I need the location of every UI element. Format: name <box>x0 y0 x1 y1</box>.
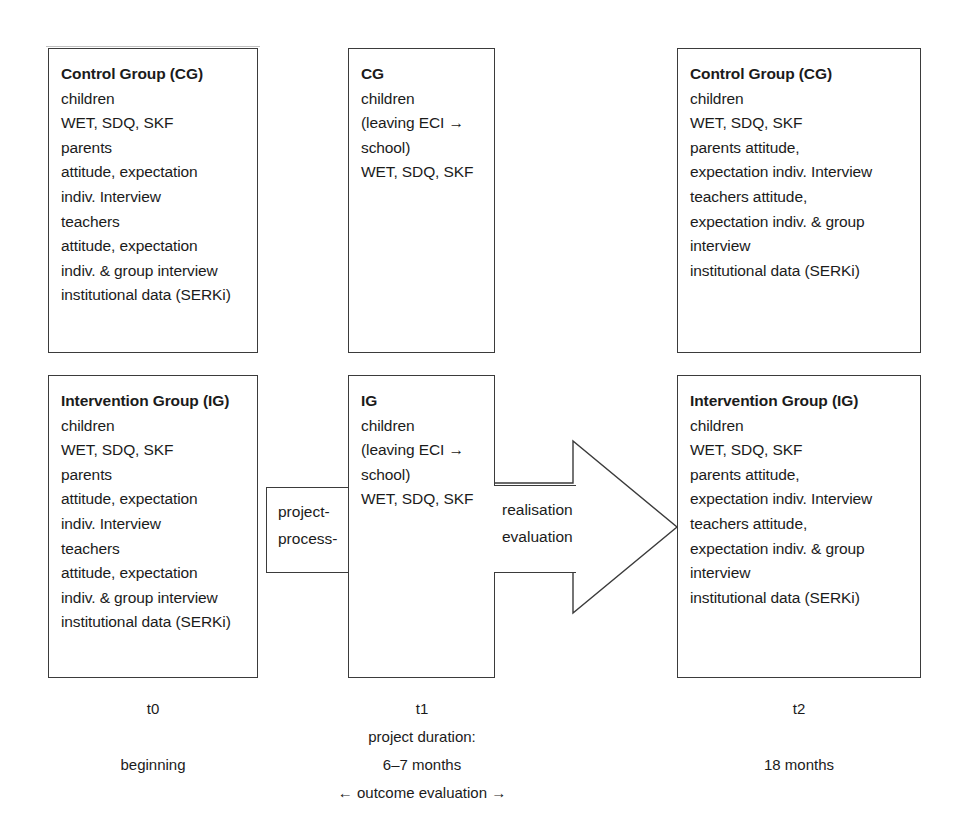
box-line: WET, SDQ, SKF <box>690 438 920 463</box>
timeline-sublabel-t2: 18 months <box>677 750 921 780</box>
box-line: parents <box>61 136 257 161</box>
connector-line: evaluation <box>502 523 576 550</box>
box-line: children <box>61 414 257 439</box>
box-line: parents attitude, <box>690 136 920 161</box>
box-line: attitude, expectation <box>61 234 257 259</box>
box-line: interview <box>690 234 920 259</box>
box-line: expectation indiv. Interview <box>690 160 920 185</box>
box-line: children <box>61 87 257 112</box>
box-intervention-group-t1: IG children (leaving ECI → school) WET, … <box>348 375 495 678</box>
box-line: parents <box>61 463 257 488</box>
box-line: attitude, expectation <box>61 561 257 586</box>
box-line: indiv. Interview <box>61 185 257 210</box>
connector-project-process: project- process- <box>266 487 349 573</box>
timeline-marker-t2: t2 <box>677 694 921 724</box>
box-line: WET, SDQ, SKF <box>361 487 494 512</box>
box-line: teachers attitude, <box>690 512 920 537</box>
box-line: WET, SDQ, SKF <box>361 160 494 185</box>
timeline-marker-t1: t1 <box>313 694 531 724</box>
timeline-project-duration-label: project duration: <box>313 722 531 752</box>
box-intervention-group-t0: Intervention Group (IG) children WET, SD… <box>48 375 258 678</box>
box-line: teachers <box>61 210 257 235</box>
box-line: parents attitude, <box>690 463 920 488</box>
timeline-sublabel-t1: 6–7 months <box>313 750 531 780</box>
box-intervention-group-t2: Intervention Group (IG) children WET, SD… <box>677 375 921 678</box>
box-line: teachers attitude, <box>690 185 920 210</box>
box-line: indiv. Interview <box>61 512 257 537</box>
box-line: institutional data (SERKi) <box>61 610 257 635</box>
box-control-group-t2: Control Group (CG) children WET, SDQ, SK… <box>677 48 921 353</box>
box-control-group-t1: CG children (leaving ECI → school) WET, … <box>348 48 495 353</box>
box-line: children <box>690 414 920 439</box>
box-control-group-t0: Control Group (CG) children WET, SDQ, SK… <box>48 48 258 353</box>
box-line: children <box>690 87 920 112</box>
box-line: institutional data (SERKi) <box>690 259 920 284</box>
box-line: school) <box>361 136 494 161</box>
box-line: WET, SDQ, SKF <box>61 111 257 136</box>
box-title: Intervention Group (IG) <box>690 389 920 414</box>
timeline-marker-t0: t0 <box>48 694 258 724</box>
box-line: WET, SDQ, SKF <box>61 438 257 463</box>
diagram-canvas: Control Group (CG) children WET, SDQ, SK… <box>0 0 966 838</box>
box-title: Intervention Group (IG) <box>61 389 257 414</box>
box-line: attitude, expectation <box>61 160 257 185</box>
timeline-sublabel-t0: beginning <box>48 750 258 780</box>
box-line: (leaving ECI → <box>361 111 494 136</box>
box-line: interview <box>690 561 920 586</box>
box-line: attitude, expectation <box>61 487 257 512</box>
box-line: (leaving ECI → <box>361 438 494 463</box>
box-line: WET, SDQ, SKF <box>690 111 920 136</box>
box-line: expectation indiv. & group <box>690 537 920 562</box>
connector-realisation-evaluation: realisation evaluation <box>494 485 576 573</box>
connector-line: process- <box>278 525 349 552</box>
connector-line: realisation <box>502 496 576 523</box>
box-title: IG <box>361 389 494 414</box>
box-line: children <box>361 414 494 439</box>
box-title: Control Group (CG) <box>690 62 920 87</box>
connector-line: project- <box>278 498 349 525</box>
box-title: Control Group (CG) <box>61 62 257 87</box>
box-line: indiv. & group interview <box>61 586 257 611</box>
box-line: expectation indiv. Interview <box>690 487 920 512</box>
box-line: institutional data (SERKi) <box>690 586 920 611</box>
box-title: CG <box>361 62 494 87</box>
box-line: children <box>361 87 494 112</box>
timeline-outcome-evaluation-label: ← outcome evaluation → <box>313 778 531 808</box>
box-line: expectation indiv. & group <box>690 210 920 235</box>
box-line: teachers <box>61 537 257 562</box>
box-line: indiv. & group interview <box>61 259 257 284</box>
box-line: institutional data (SERKi) <box>61 283 257 308</box>
scan-artifact-line <box>46 46 260 47</box>
box-line: school) <box>361 463 494 488</box>
